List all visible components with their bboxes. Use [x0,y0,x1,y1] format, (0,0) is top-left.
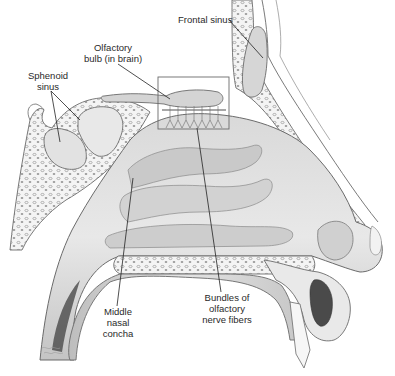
label-middle-nasal-concha: Middle nasal concha [100,306,136,339]
label-sphenoid-sinus: Sphenoid sinus [24,70,72,92]
oral-region [52,274,296,360]
label-bundles-line1: Bundles of [196,292,258,303]
label-olfactory-nerve-bundles: Bundles of olfactory nerve fibers [196,292,258,325]
label-middle-concha-line2: nasal [100,317,136,328]
label-middle-concha-line3: concha [100,328,136,339]
label-olfactory-bulb: Olfactory bulb (in brain) [84,42,142,64]
label-sphenoid-line1: Sphenoid [24,70,72,81]
label-olfactory-bulb-line1: Olfactory [84,42,142,53]
label-bundles-line3: nerve fibers [196,314,258,325]
label-frontal-sinus: Frontal sinus [178,14,232,25]
upper-lip [264,260,350,368]
label-bundles-line2: olfactory [196,303,258,314]
label-sphenoid-line2: sinus [24,81,72,92]
label-middle-concha-line1: Middle [100,306,136,317]
label-olfactory-bulb-line2: bulb (in brain) [84,53,142,64]
label-frontal-sinus-text: Frontal sinus [178,14,232,25]
